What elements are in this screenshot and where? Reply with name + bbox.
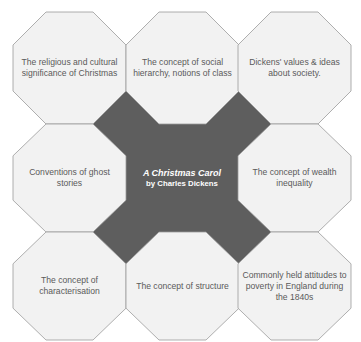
octagon-label: The concept of wealth inequality [242,124,347,232]
octagon-top-center: The concept of social hierarchy, notions… [126,12,239,124]
octagon-middle-left: Conventions of ghost stories [13,124,126,232]
octagon-label: Commonly held attitudes to poverty in En… [242,232,347,340]
octagon-middle-right: The concept of wealth inequality [238,124,351,232]
octagon-label: The concept of social hierarchy, notions… [130,12,235,124]
octagon-top-left: The religious and cultural significance … [13,12,126,124]
octagon-bottom-right: Commonly held attitudes to poverty in En… [238,232,351,340]
octagon-label: Conventions of ghost stories [17,124,122,232]
octagon-label: The religious and cultural significance … [17,12,122,124]
center-topic: A Christmas Carol by Charles Dickens [126,124,238,232]
octagon-top-right: Dickens' values & ideas about society. [238,12,351,124]
octagon-bottom-center: The concept of structure [126,232,239,340]
octagon-label: The concept of structure [130,232,235,340]
mind-map-diagram: The religious and cultural significance … [0,0,361,342]
octagon-label: Dickens' values & ideas about society. [242,12,347,124]
octagon-label: The concept of characterisation [17,232,122,340]
center-subtitle: by Charles Dickens [146,179,218,189]
center-title: A Christmas Carol [143,168,221,179]
octagon-bottom-left: The concept of characterisation [13,232,126,340]
